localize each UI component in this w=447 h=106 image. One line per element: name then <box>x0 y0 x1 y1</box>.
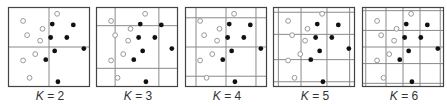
open-circle-point <box>303 38 308 43</box>
filled-dot-point <box>435 46 440 51</box>
filled-dot-point <box>248 22 253 27</box>
open-circle-point <box>217 26 222 31</box>
k-value: = 5 <box>309 89 329 103</box>
open-circle-point <box>215 38 220 43</box>
filled-dot-point <box>43 57 48 62</box>
open-circle-point <box>210 52 215 57</box>
filled-dot-point <box>308 57 313 62</box>
panel-k-6: K = 6 <box>360 0 447 106</box>
filled-dot-point <box>402 35 407 40</box>
filled-dot-point <box>241 35 246 40</box>
open-circle-point <box>202 33 207 38</box>
panel-k-4: K = 4 <box>183 0 271 106</box>
filled-dot-point <box>397 57 402 62</box>
open-circle-point <box>379 33 384 38</box>
open-circle-point <box>305 26 310 31</box>
filled-dot-point <box>52 49 57 54</box>
open-circle-point <box>33 52 38 57</box>
open-circle-point <box>143 11 148 16</box>
open-circle-point <box>21 19 26 24</box>
filled-dot-point <box>64 35 69 40</box>
open-circle-point <box>55 11 60 16</box>
open-circle-point <box>409 11 414 16</box>
filled-dot-point <box>140 49 145 54</box>
open-circle-point <box>232 11 237 16</box>
k-value: = 4 <box>221 89 241 103</box>
filled-dot-point <box>336 22 341 27</box>
filled-dot-point <box>56 79 61 84</box>
panel-k-2: K = 2 <box>6 0 94 106</box>
k-label: K = 4 <box>183 89 271 103</box>
k-variable: K <box>124 89 132 103</box>
k-variable: K <box>213 89 221 103</box>
scatter-grid-plot <box>94 0 181 88</box>
filled-dot-point <box>152 35 157 40</box>
open-circle-point <box>121 52 126 57</box>
k-value: = 3 <box>132 89 152 103</box>
filled-dot-point <box>329 35 334 40</box>
filled-dot-point <box>410 79 415 84</box>
open-circle-point <box>381 75 386 80</box>
open-circle-point <box>298 52 303 57</box>
filled-dot-point <box>136 35 141 40</box>
open-circle-point <box>375 19 380 24</box>
filled-dot-point <box>138 22 143 27</box>
open-circle-point <box>115 75 120 80</box>
k-value: = 2 <box>44 89 64 103</box>
open-circle-point <box>128 26 133 31</box>
filled-dot-point <box>233 79 238 84</box>
open-circle-point <box>320 11 325 16</box>
filled-dot-point <box>159 22 164 27</box>
filled-dot-point <box>227 22 232 27</box>
open-circle-point <box>21 58 26 63</box>
open-circle-point <box>394 26 399 31</box>
open-circle-point <box>40 26 45 31</box>
filled-dot-point <box>81 46 86 51</box>
scatter-grid-plot <box>183 0 270 88</box>
filled-dot-point <box>425 22 430 27</box>
filled-dot-point <box>258 46 263 51</box>
filled-dot-point <box>71 22 76 27</box>
open-circle-point <box>109 58 114 63</box>
panel-k-3: K = 3 <box>94 0 182 106</box>
filled-dot-point <box>313 35 318 40</box>
filled-dot-point <box>48 35 53 40</box>
open-circle-point <box>198 58 203 63</box>
filled-dot-point <box>169 46 174 51</box>
open-circle-point <box>38 38 43 43</box>
filled-dot-point <box>418 35 423 40</box>
k-label: K = 2 <box>6 89 94 103</box>
open-circle-point <box>375 58 380 63</box>
filled-dot-point <box>229 49 234 54</box>
k-variable: K <box>301 89 309 103</box>
filled-dot-point <box>131 57 136 62</box>
open-circle-point <box>392 38 397 43</box>
k-label: K = 6 <box>360 89 447 103</box>
filled-dot-point <box>315 22 320 27</box>
scatter-grid-plot <box>6 0 93 88</box>
open-circle-point <box>286 58 291 63</box>
filled-dot-point <box>317 49 322 54</box>
filled-dot-point <box>220 57 225 62</box>
filled-dot-point <box>321 79 326 84</box>
open-circle-point <box>198 19 203 24</box>
open-circle-point <box>25 33 30 38</box>
open-circle-point <box>292 75 297 80</box>
open-circle-point <box>27 75 32 80</box>
k-variable: K <box>390 89 398 103</box>
open-circle-point <box>126 38 131 43</box>
open-circle-point <box>204 75 209 80</box>
scatter-grid-plot <box>360 0 447 88</box>
filled-dot-point <box>404 22 409 27</box>
open-circle-point <box>387 52 392 57</box>
k-value: = 6 <box>398 89 418 103</box>
open-circle-point <box>286 19 291 24</box>
k-label: K = 3 <box>94 89 182 103</box>
k-label: K = 5 <box>271 89 359 103</box>
scatter-grid-plot <box>271 0 358 88</box>
open-circle-point <box>109 19 114 24</box>
open-circle-point <box>113 33 118 38</box>
filled-dot-point <box>225 35 230 40</box>
panel-k-5: K = 5 <box>271 0 359 106</box>
filled-dot-point <box>50 22 55 27</box>
